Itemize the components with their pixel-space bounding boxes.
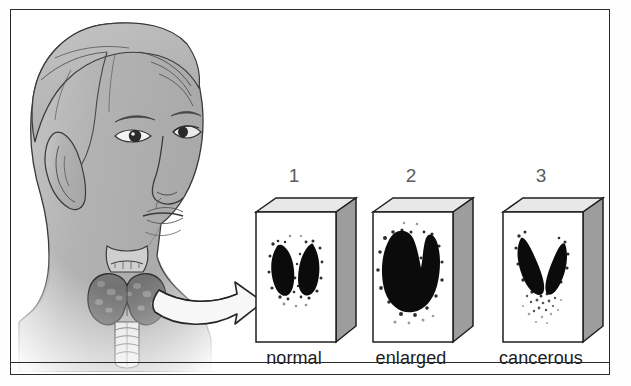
scan-box-enlarged [371,196,475,344]
scan-number-1: 1 [254,165,334,187]
scan-box-normal [254,196,358,344]
figure-frame: 1 [10,9,610,375]
scan-label-normal: normal [235,348,353,369]
scan-box-cancerous [501,196,605,344]
scan-label-enlarged: enlarged [352,348,470,369]
thyroid-figure: 1 [0,0,631,386]
scan-number-2: 2 [371,165,451,187]
bottom-divider [11,362,609,363]
scan-number-3: 3 [501,165,581,187]
scan-label-cancerous: cancerous [482,348,600,369]
pointer-arrow [151,272,271,334]
